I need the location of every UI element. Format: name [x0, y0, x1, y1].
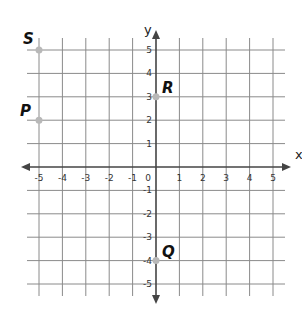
point-label-q: Q: [162, 243, 175, 261]
point-q: [153, 257, 160, 264]
axes: xy: [21, 22, 302, 304]
x-tick-label: 3: [223, 173, 229, 183]
y-tick-label: -3: [143, 232, 152, 242]
x-axis-right-arrow-icon: [282, 163, 291, 171]
x-tick-label: 1: [177, 173, 183, 183]
point-label-p: P: [20, 102, 31, 120]
y-axis-label: y: [144, 22, 152, 37]
x-axis-left-arrow-icon: [21, 163, 30, 171]
point-r: [153, 93, 160, 100]
y-tick-label: -2: [143, 209, 152, 219]
y-tick-label: 2: [146, 115, 152, 125]
x-tick-label: 4: [247, 173, 253, 183]
y-tick-label: -1: [143, 185, 152, 195]
point-p: [36, 117, 43, 124]
y-tick-label: 4: [146, 68, 152, 78]
x-tick-label: -5: [35, 173, 44, 183]
y-tick-label: -4: [143, 256, 152, 266]
x-tick-label: -3: [81, 173, 90, 183]
y-tick-label: 3: [146, 92, 152, 102]
x-tick-label: -2: [105, 173, 114, 183]
point-label-r: R: [162, 79, 174, 97]
x-tick-label: 0: [145, 173, 151, 183]
y-tick-label: -5: [143, 279, 152, 289]
x-tick-label: 2: [200, 173, 206, 183]
y-axis-up-arrow-icon: [152, 30, 160, 39]
point-label-s: S: [23, 30, 34, 48]
y-tick-label: 1: [146, 139, 152, 149]
x-tick-label: -4: [58, 173, 67, 183]
y-tick-label: 5: [146, 45, 152, 55]
y-axis-down-arrow-icon: [152, 295, 160, 304]
point-s: [36, 47, 43, 54]
x-tick-label: 5: [270, 173, 276, 183]
x-axis-label: x: [295, 147, 302, 162]
coordinate-plane: xy -5-4-3-2-101234554321-1-2-3-4-5 SPRQ: [0, 0, 302, 331]
x-tick-label: -1: [128, 173, 137, 183]
